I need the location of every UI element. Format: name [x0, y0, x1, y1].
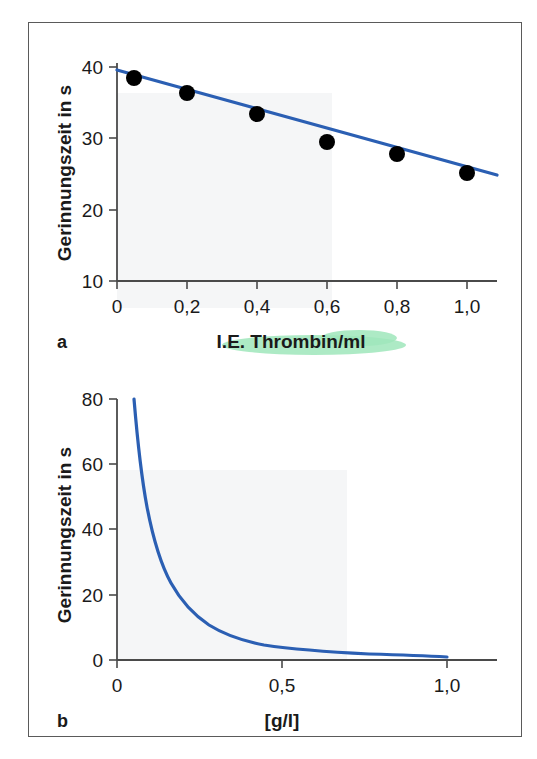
chart-panel-b: 80 60 40 20 0 0 0,5 1,0 Gerinnungszeit i… — [29, 375, 521, 736]
y-tick-label-a-20: 20 — [82, 200, 103, 221]
data-point — [249, 106, 265, 122]
x-axis-title-a: I.E. Thrombin/ml — [217, 331, 366, 352]
y-tick-label-a-40: 40 — [82, 57, 103, 78]
chart-b-svg: 80 60 40 20 0 0 0,5 1,0 Gerinnungszeit i… — [29, 375, 523, 736]
figure-frame: 40 30 20 10 0 0,2 0,4 0,6 0,8 1,0 Gerinn… — [28, 22, 522, 737]
y-tick-label-b-40: 40 — [82, 519, 103, 540]
paper-wash-b — [117, 470, 347, 660]
x-axis-title-b: [g/l] — [265, 710, 300, 731]
x-tick-label-a-08: 0,8 — [384, 296, 410, 317]
paper-wash-a — [117, 93, 332, 308]
x-tick-label-b-10: 1,0 — [434, 675, 460, 696]
data-point — [126, 70, 142, 86]
chart-panel-a: 40 30 20 10 0 0,2 0,4 0,6 0,8 1,0 Gerinn… — [29, 23, 521, 375]
y-tick-label-a-30: 30 — [82, 128, 103, 149]
y-tick-label-b-80: 80 — [82, 389, 103, 410]
y-tick-label-b-20: 20 — [82, 585, 103, 606]
x-tick-label-a-02: 0,2 — [174, 296, 200, 317]
y-tick-label-a-10: 10 — [82, 271, 103, 292]
chart-a-svg: 40 30 20 10 0 0,2 0,4 0,6 0,8 1,0 Gerinn… — [29, 23, 523, 375]
panel-letter-b: b — [57, 711, 68, 731]
x-tick-label-b-0: 0 — [112, 675, 123, 696]
y-axis-title-b: Gerinnungszeit in s — [54, 447, 75, 623]
data-point — [319, 134, 335, 150]
x-tick-label-a-0: 0 — [112, 296, 123, 317]
y-tick-label-b-0: 0 — [92, 650, 103, 671]
x-tick-label-a-10: 1,0 — [454, 296, 480, 317]
panel-letter-a: a — [57, 332, 68, 352]
y-axis-title-a: Gerinnungszeit in s — [54, 85, 75, 261]
data-point — [389, 146, 405, 162]
x-tick-label-a-06: 0,6 — [314, 296, 340, 317]
data-point — [459, 165, 475, 181]
x-tick-label-a-04: 0,4 — [244, 296, 271, 317]
data-point — [179, 85, 195, 101]
y-tick-label-b-60: 60 — [82, 454, 103, 475]
x-tick-label-b-05: 0,5 — [269, 675, 295, 696]
